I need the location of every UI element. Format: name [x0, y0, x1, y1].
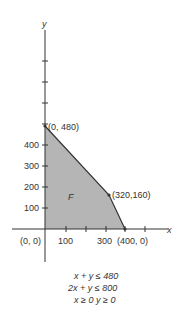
vertex-label-0-480: (0, 480) [48, 122, 79, 132]
feasible-region [45, 126, 125, 229]
constraint-3: x ≥ 0 y ≥ 0 [74, 295, 115, 305]
vertex-400-0 [123, 227, 126, 230]
y-tick-label-400: 400 [24, 140, 39, 150]
x-tick-label-100: 100 [58, 236, 73, 246]
y-tick-label-200: 200 [24, 182, 39, 192]
constraint-2: 2x + y ≤ 800 [68, 283, 117, 293]
y-tick-label-100: 100 [24, 203, 39, 213]
vertex-0-480 [43, 124, 46, 127]
x-axis-label: x [166, 225, 172, 235]
x-tick-label-300: 300 [97, 236, 112, 246]
vertex-label-400-0: (400, 0) [117, 236, 148, 246]
vertex-320-160 [107, 193, 110, 196]
constraint-1: x + y ≤ 480 [74, 271, 118, 281]
region-label-f: F [68, 192, 74, 202]
y-tick-label-300: 300 [24, 161, 39, 171]
y-axis-label: y [41, 19, 47, 29]
vertex-label-320-160: (320,160) [112, 190, 151, 200]
origin-label: (0, 0) [20, 236, 41, 246]
